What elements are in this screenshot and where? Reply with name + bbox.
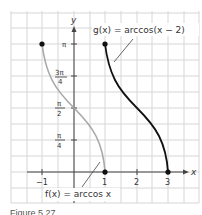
xtick-label-m1: −1: [36, 178, 48, 187]
series-f-endpoint: [102, 169, 107, 174]
x-axis-arrow-icon: [183, 170, 189, 175]
f-function-label: f(x) = arccos x: [45, 189, 112, 199]
xtick-label-2: 2: [134, 178, 139, 187]
chart: x y −1 1 2 3 π 3π 4 π 2 π 4 g(x) = arcco…: [0, 0, 202, 215]
ytick-label-pi4-den: 4: [57, 142, 62, 150]
series-f-endpoint: [39, 41, 44, 46]
axes: [27, 26, 189, 203]
ytick-label-pi2-den: 2: [57, 110, 61, 118]
figure-caption: Figure 5.27: [10, 209, 90, 215]
ytick-label-pi2-num: π: [57, 100, 62, 108]
f-leader-line: [82, 162, 100, 187]
ytick-label-3pi4-num: 3π: [55, 69, 64, 77]
ytick-label-3pi4-den: 4: [58, 78, 63, 86]
figure-caption-clip: Figure 5.27: [10, 209, 90, 215]
y-axis-arrow-icon: [72, 26, 77, 32]
series-g-endpoint: [102, 41, 107, 46]
ytick-label-pi4-num: π: [57, 132, 62, 140]
g-leader-line: [114, 39, 133, 62]
g-function-label: g(x) = arccos(x − 2): [93, 25, 185, 35]
series-g-endpoint: [165, 169, 170, 174]
x-axis-label: x: [190, 167, 197, 177]
xtick-label-3: 3: [165, 178, 170, 187]
ytick-label-pi: π: [62, 41, 67, 49]
xtick-label-1: 1: [102, 178, 107, 187]
y-axis-label: y: [70, 15, 77, 25]
